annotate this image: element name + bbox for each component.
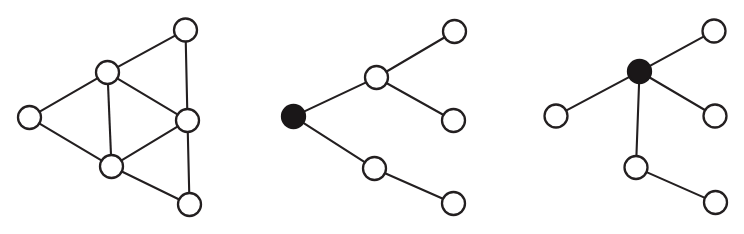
graph-node-open [96, 61, 119, 84]
graph-edge [648, 77, 706, 111]
graph-node-open [625, 156, 648, 179]
triangular-lattice-graph [18, 19, 201, 217]
graph-edge [38, 78, 98, 113]
graph-edge [186, 40, 188, 110]
graph-node-open [178, 193, 201, 216]
graph-edge [188, 131, 190, 194]
graph-node-open [365, 66, 388, 89]
graph-edge [645, 172, 706, 199]
graph-edge [636, 82, 639, 157]
graph-node-open [18, 106, 41, 129]
graph-figure-canvas [0, 0, 744, 234]
graph-node-filled [282, 105, 305, 128]
graph-node-open [363, 157, 386, 180]
graph-edge [108, 83, 111, 156]
graph-edge [38, 123, 102, 161]
graph-edge [117, 35, 177, 68]
graph-edge [302, 122, 366, 163]
graph-edge [121, 171, 180, 200]
graph-node-open [442, 109, 465, 132]
star-branch-tree-nodes [545, 20, 728, 215]
figure-root [0, 0, 744, 234]
graph-node-filled [628, 60, 651, 83]
graphs-layer [18, 19, 727, 217]
graph-node-open [176, 109, 199, 132]
graph-edge [565, 76, 630, 111]
graph-edge [385, 37, 445, 73]
graph-node-open [703, 20, 726, 43]
graph-node-open [545, 105, 568, 128]
graph-node-open [704, 191, 727, 214]
binary-branch-tree [282, 20, 466, 215]
graph-edge [303, 82, 367, 112]
graph-edge [384, 173, 444, 200]
graph-node-open [100, 155, 123, 178]
graph-node-open [442, 192, 465, 215]
binary-branch-tree-nodes [282, 20, 466, 215]
graph-edge [116, 78, 178, 115]
graph-node-open [443, 20, 466, 43]
graph-edge [385, 83, 444, 116]
graph-node-open [174, 19, 197, 42]
star-branch-tree [545, 20, 728, 215]
graph-edge [649, 36, 705, 67]
graph-edge [120, 126, 178, 161]
graph-node-open [704, 105, 727, 128]
